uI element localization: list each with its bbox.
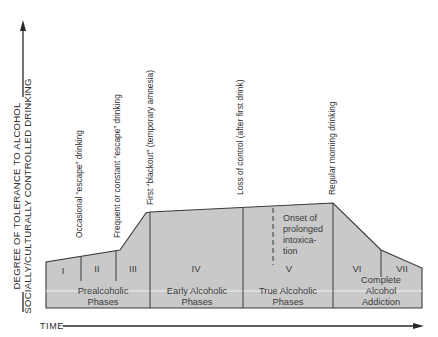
svg-text:Early Alcoholic: Early Alcoholic — [167, 286, 228, 296]
x-axis: TIME — [40, 321, 424, 331]
annotation-frequent: Frequent or constant “escape” drinking — [112, 94, 122, 238]
stage-label: VII — [396, 263, 408, 274]
arrow-up-icon — [20, 20, 26, 31]
svg-text:Onset of: Onset of — [283, 213, 318, 223]
y-axis-label-line2: SOCIALLY/CULTURALLY CONTROLLED DRINKING — [22, 78, 33, 313]
svg-text:tion: tion — [283, 246, 298, 256]
svg-text:Prealcoholic: Prealcoholic — [78, 286, 129, 296]
annotation-occasional: Occasional “escape” drinking — [74, 130, 84, 238]
x-axis-label: TIME — [40, 321, 64, 331]
stage-label: IV — [192, 263, 202, 274]
svg-text:prolonged: prolonged — [283, 224, 323, 234]
stage-label: VI — [353, 263, 362, 274]
svg-text:intoxica-: intoxica- — [283, 235, 317, 245]
stage-label: II — [94, 263, 99, 274]
annotation-morning-drinking: Regular morning drinking — [327, 101, 337, 195]
y-axis: DEGREE OF TOLERANCE TO ALCOHOL SOCIALLY/… — [11, 20, 33, 314]
y-axis-label-line1: DEGREE OF TOLERANCE TO ALCOHOL — [11, 102, 22, 290]
stage-label: I — [62, 265, 65, 276]
svg-text:Phases: Phases — [272, 297, 303, 307]
stage-label: III — [129, 263, 137, 274]
annotation-blackout: First “blackout” (temporary amnesia) — [145, 70, 155, 205]
stage-label: V — [286, 263, 293, 274]
annotation-loss-of-control: Loss of control (after first drink) — [235, 79, 245, 195]
arrow-right-icon — [413, 323, 424, 329]
svg-text:Phases: Phases — [181, 297, 212, 307]
alcoholism-phases-diagram: DEGREE OF TOLERANCE TO ALCOHOL SOCIALLY/… — [0, 0, 438, 337]
svg-text:Alcohol: Alcohol — [366, 286, 397, 296]
svg-text:Addiction: Addiction — [362, 297, 400, 307]
svg-text:Phases: Phases — [87, 297, 118, 307]
svg-text:Complete: Complete — [361, 275, 401, 285]
svg-text:True Alcoholic: True Alcoholic — [259, 286, 317, 296]
